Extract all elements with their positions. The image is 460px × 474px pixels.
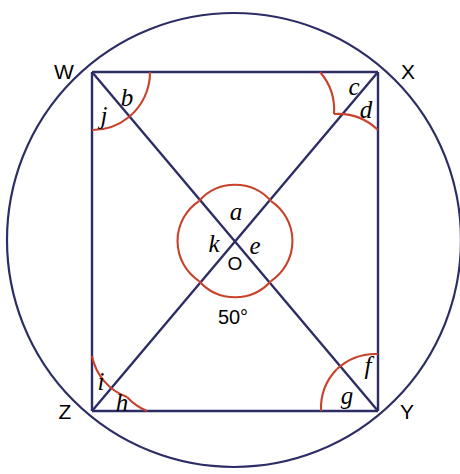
angle-label-a: a	[230, 198, 243, 225]
angle-label-h: h	[116, 389, 129, 416]
arc-angle-j	[92, 117, 129, 130]
angle-label-k: k	[208, 230, 220, 257]
centre-point-label-O: O	[228, 253, 243, 274]
vertex-label-W: W	[54, 60, 74, 83]
vertex-label-Z: Z	[59, 400, 72, 423]
geometry-figure: W X Y Z O a b c d e f g h i j k 50°	[0, 0, 460, 474]
angle-label-g: g	[341, 382, 354, 409]
angle-label-b: b	[121, 84, 134, 111]
arc-angle-g	[321, 369, 337, 411]
diagram-canvas: W X Y Z O a b c d e f g h i j k 50°	[0, 0, 460, 474]
angle-label-d: d	[360, 96, 373, 123]
arc-angle-h	[127, 397, 147, 411]
angle-label-j: j	[98, 102, 108, 129]
known-angle-value: 50°	[218, 306, 248, 328]
angle-label-i: i	[98, 368, 105, 395]
arc-angle-e	[271, 201, 292, 281]
arc-angle-k	[178, 201, 199, 281]
angle-label-c: c	[348, 73, 359, 100]
vertex-label-X: X	[401, 60, 415, 83]
arc-angle-50	[199, 281, 271, 297]
arc-angle-c	[320, 72, 334, 114]
vertex-label-Y: Y	[400, 400, 414, 423]
angle-label-e: e	[249, 232, 260, 259]
angle-label-f: f	[365, 352, 375, 379]
arc-angle-f	[337, 354, 378, 369]
